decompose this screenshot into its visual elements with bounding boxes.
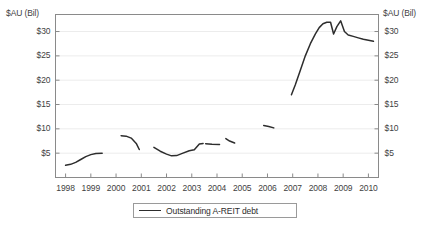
- y-tick-label-right: $30: [385, 26, 413, 36]
- y-tick-label-right: $5: [385, 148, 413, 158]
- y-tick-label-left: $15: [23, 99, 51, 109]
- legend-line-swatch: [139, 210, 161, 211]
- y-tick-label-left: $10: [23, 123, 51, 133]
- chart-container: $AU (Bil) $AU (Bil) $5$10$15$20$25$30 $5…: [0, 0, 430, 232]
- y-tick-label-left: $25: [23, 50, 51, 60]
- y-tick-label-left: $20: [23, 75, 51, 85]
- y-tick-label-right: $10: [385, 123, 413, 133]
- gridlines-group: [56, 32, 379, 154]
- y-tick-label-left: $30: [23, 26, 51, 36]
- y-tick-label-left: $5: [23, 148, 51, 158]
- data-line-group: [66, 21, 374, 166]
- legend-label: Outstanding A-REIT debt: [166, 206, 258, 216]
- y-tick-label-right: $25: [385, 50, 413, 60]
- x-tick-label: 2010: [353, 183, 383, 193]
- y-tick-label-right: $15: [385, 99, 413, 109]
- y-tick-label-right: $20: [385, 75, 413, 85]
- legend: Outstanding A-REIT debt: [133, 203, 297, 218]
- plot-area: [0, 0, 430, 232]
